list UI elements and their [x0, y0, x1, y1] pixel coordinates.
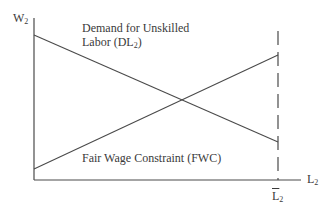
y-axis-label: W2	[13, 12, 28, 25]
l-bar-label: L2	[272, 190, 283, 203]
demand-curve-label-line2: Labor (DL2)	[82, 36, 142, 49]
x-axis-label: L2	[307, 173, 318, 186]
fwc-label: Fair Wage Constraint (FWC)	[82, 152, 221, 165]
diagram-canvas: W2 Demand for Unskilled Labor (DL2) Fair…	[0, 0, 331, 214]
demand-curve-label-line1: Demand for Unskilled	[82, 22, 189, 35]
demand-curve-dl2	[34, 35, 278, 142]
